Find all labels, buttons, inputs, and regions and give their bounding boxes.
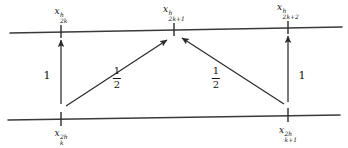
label-fine-node-2k-var: x (55, 6, 60, 16)
label-fine-node-2k2-var: x (277, 2, 282, 12)
label-fine-node-2k: xh2k (55, 7, 68, 25)
label-fine-node-2k1-subscript: 2k+1 (169, 16, 185, 23)
weight-left-half-denominator: 2 (113, 79, 121, 91)
arrow-right-diagonal (182, 38, 284, 104)
prolongation-diagram: xh2k xh2k+1 xh2k+2 x2hk x2hk+1 1 1 2 1 2… (0, 0, 348, 148)
label-fine-node-2k-indices: h2k (60, 12, 67, 25)
weight-left-half: 1 2 (113, 66, 121, 90)
label-fine-node-2k1-indices: h2k+1 (169, 10, 185, 23)
coarse-grid-line (8, 115, 340, 120)
weight-right-half: 1 2 (212, 66, 220, 90)
label-coarse-node-k: x2hk (54, 129, 67, 147)
label-coarse-node-k-subscript: k (60, 140, 68, 147)
weight-right-half-denominator: 2 (212, 79, 220, 91)
label-fine-node-2k2: xh2k+2 (277, 3, 299, 21)
label-coarse-node-k1-subscript: k+1 (284, 137, 296, 144)
label-coarse-node-k-indices: 2hk (60, 134, 68, 147)
weight-right-one: 1 (299, 70, 306, 81)
label-coarse-node-k1-indices: 2hk+1 (284, 131, 296, 144)
label-fine-node-2k-subscript: 2k (60, 18, 67, 25)
weight-left-one: 1 (44, 70, 51, 81)
label-coarse-node-k1: x2hk+1 (279, 126, 297, 144)
label-fine-node-2k2-subscript: 2k+2 (283, 14, 299, 21)
weight-right-half-numerator: 1 (212, 66, 220, 78)
label-fine-node-2k1-var: x (163, 4, 168, 14)
weight-left-half-numerator: 1 (113, 66, 121, 78)
label-fine-node-2k1: xh2k+1 (163, 5, 185, 23)
label-fine-node-2k2-indices: h2k+2 (283, 8, 299, 21)
fine-grid-line (10, 27, 342, 33)
